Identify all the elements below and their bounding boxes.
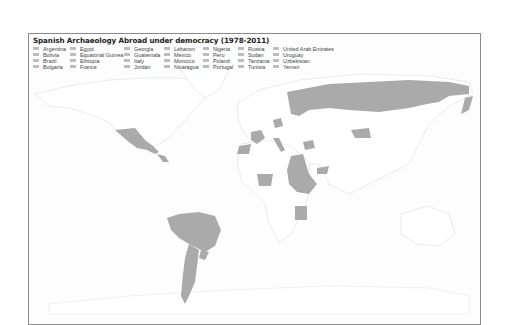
legend-swatch xyxy=(70,53,76,56)
legend-swatch xyxy=(203,53,209,56)
legend-swatch xyxy=(124,65,130,68)
world-map xyxy=(29,34,480,324)
legend-item: Yemen xyxy=(273,64,334,70)
legend-swatch xyxy=(70,59,76,62)
country-uruguay xyxy=(199,250,209,260)
country-morocco xyxy=(237,144,251,154)
legend-swatch xyxy=(273,53,279,56)
legend-swatch xyxy=(203,65,209,68)
legend-swatch xyxy=(238,47,244,50)
legend-label: France xyxy=(80,64,97,70)
legend-column: Nigeria Peru Poland Portugal xyxy=(203,46,233,70)
legend-swatch xyxy=(164,59,170,62)
legend-column: Georgia Guatemala Italy Jordan xyxy=(124,46,160,70)
legend-swatch xyxy=(33,53,39,56)
country-yemen xyxy=(317,166,329,174)
map-frame: Spanish Archaeology Abroad under democra… xyxy=(28,33,481,325)
legend-swatch xyxy=(273,47,279,50)
legend-swatch xyxy=(124,59,130,62)
legend-swatch xyxy=(164,65,170,68)
legend-swatch xyxy=(238,59,244,62)
country-brazil-peru-bolivia xyxy=(167,212,221,252)
legend-item: France xyxy=(70,64,123,70)
legend-swatch xyxy=(33,59,39,62)
legend-swatch xyxy=(164,47,170,50)
legend-swatch xyxy=(238,53,244,56)
legend-label: Portugal xyxy=(213,64,233,70)
country-nigeria xyxy=(257,174,273,186)
legend-column: Argentina Bolivia Brazil Bulgaria xyxy=(33,46,66,70)
legend-item: Portugal xyxy=(203,64,233,70)
legend-swatch xyxy=(70,47,76,50)
legend-column: Russia Sudan Tanzania Tunisia xyxy=(238,46,270,70)
country-tanzania xyxy=(295,206,307,220)
legend-item: Bulgaria xyxy=(33,64,66,70)
legend-swatch xyxy=(124,53,130,56)
legend-item: Nicaragua xyxy=(164,64,199,70)
legend-label: Tunisia xyxy=(248,64,265,70)
country-guatemala-nicaragua xyxy=(157,154,169,162)
legend-item: Tunisia xyxy=(238,64,270,70)
legend-label: Jordan xyxy=(134,64,150,70)
legend-swatch xyxy=(273,59,279,62)
legend-column: Lebanon Mexico Morocco Nicaragua xyxy=(164,46,199,70)
legend-swatch xyxy=(203,59,209,62)
legend-swatch xyxy=(124,47,130,50)
legend-column: Egypt Equatorial Guinea Ethiopia France xyxy=(70,46,123,70)
legend-column: United Arab Emirates Uruguay Uzbekistan … xyxy=(273,46,334,70)
legend-swatch xyxy=(164,53,170,56)
legend-swatch xyxy=(238,65,244,68)
legend-swatch xyxy=(33,65,39,68)
legend-label: Nicaragua xyxy=(174,64,199,70)
map-title: Spanish Archaeology Abroad under democra… xyxy=(33,36,269,45)
legend-label: Bulgaria xyxy=(43,64,63,70)
legend-swatch xyxy=(33,47,39,50)
legend-label: Yemen xyxy=(283,64,300,70)
legend-swatch xyxy=(203,47,209,50)
legend-swatch xyxy=(273,65,279,68)
legend-swatch xyxy=(70,65,76,68)
legend-item: Jordan xyxy=(124,64,160,70)
